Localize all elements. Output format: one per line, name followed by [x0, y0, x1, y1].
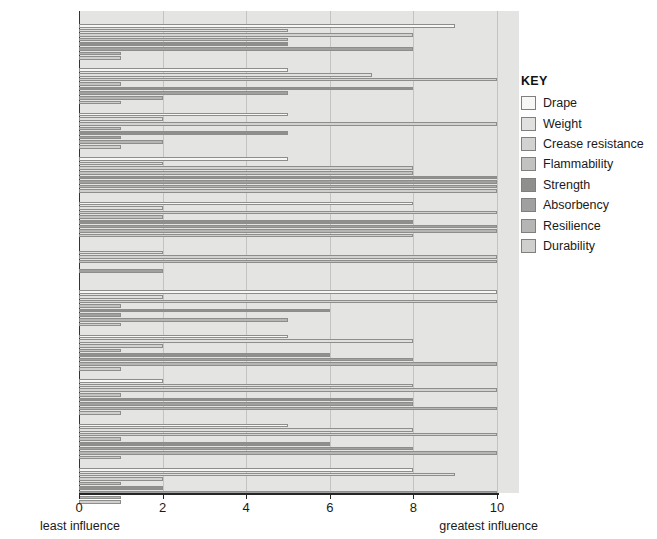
bar-linen-crease-resistance: [79, 388, 497, 392]
bar-elastane-strength: [79, 131, 288, 135]
bar-linen-resilience: [79, 407, 497, 411]
bar-silk-weight: [79, 428, 413, 432]
bar-nylon-resilience: [79, 185, 497, 189]
bar-nylon-weight: [79, 162, 163, 166]
bar-elastane-absorbency: [79, 136, 121, 140]
legend-label-crease-resistance: Crease resistance: [543, 137, 644, 151]
bar-tencel-crease-resistance: [79, 255, 497, 259]
x-tick-label-8: 8: [410, 500, 417, 515]
bar-silk-absorbency: [79, 447, 413, 451]
legend-label-drape: Drape: [543, 96, 577, 110]
bar-cotton-resilience: [79, 362, 497, 366]
bar-tencel-flammability: [79, 260, 497, 264]
bar-cotton-durability: [79, 367, 121, 371]
bar-cotton-weight: [79, 339, 413, 343]
bar-wool-durability: [79, 500, 121, 504]
legend-label-strength: Strength: [543, 178, 590, 192]
bar-cotton-flammability: [79, 349, 121, 353]
bar-tencel-weight: [79, 251, 163, 255]
category-group-acetate: Acetate: [79, 24, 519, 61]
legend-item-absorbency[interactable]: Absorbency: [521, 195, 653, 215]
bar-elastane-weight: [79, 117, 163, 121]
bar-polyester-weight: [79, 206, 163, 210]
bar-polyester-strength: [79, 220, 413, 224]
x-tick-8: [413, 493, 414, 499]
legend-swatch-flammability: [521, 157, 536, 171]
bar-acrylic-durability: [79, 101, 121, 105]
bar-polyester-crease-resistance: [79, 211, 497, 215]
legend-swatch-crease-resistance: [521, 137, 536, 151]
plot-area: AcetateAcrylicElastaneNylonPolyesterTenc…: [79, 11, 497, 493]
legend-item-durability[interactable]: Durability: [521, 236, 653, 256]
category-group-tencel: Tencel: [79, 246, 519, 283]
x-axis-line: [79, 493, 499, 495]
legend-item-weight[interactable]: Weight: [521, 113, 653, 133]
bar-nylon-durability: [79, 189, 497, 193]
bar-viscose-weight: [79, 295, 163, 299]
category-group-wool: Wool: [79, 468, 519, 505]
legend-item-drape[interactable]: Drape: [521, 93, 653, 113]
bar-cotton-strength: [79, 353, 330, 357]
bar-cotton-drape: [79, 335, 288, 339]
category-group-silk: Silk: [79, 424, 519, 461]
legend-swatch-strength: [521, 178, 536, 192]
bar-elastane-crease-resistance: [79, 122, 497, 126]
category-group-nylon: Nylon: [79, 157, 519, 194]
category-group-linen: Linen: [79, 379, 519, 416]
axis-greatest-influence-label: greatest influence: [439, 519, 538, 533]
legend-item-strength[interactable]: Strength: [521, 175, 653, 195]
legend-label-resilience: Resilience: [543, 219, 601, 233]
bar-silk-durability: [79, 456, 121, 460]
bar-acrylic-resilience: [79, 96, 163, 100]
bar-elastane-durability: [79, 145, 121, 149]
bar-elastane-flammability: [79, 127, 121, 131]
legend-swatch-durability: [521, 239, 536, 253]
x-tick-4: [246, 493, 247, 499]
bar-nylon-strength: [79, 176, 497, 180]
bar-linen-durability: [79, 411, 121, 415]
bar-acetate-weight: [79, 29, 288, 33]
bar-silk-drape: [79, 424, 288, 428]
bar-silk-crease-resistance: [79, 433, 497, 437]
bar-acetate-durability: [79, 56, 121, 60]
bar-tencel-absorbency: [79, 269, 163, 273]
bar-nylon-flammability: [79, 171, 413, 175]
bar-acetate-drape: [79, 24, 455, 28]
x-tick-label-0: 0: [75, 500, 82, 515]
legend-label-absorbency: Absorbency: [543, 198, 609, 212]
bar-linen-weight: [79, 384, 413, 388]
bar-acetate-flammability: [79, 38, 288, 42]
bar-viscose-durability: [79, 323, 121, 327]
x-tick-0: [79, 493, 80, 499]
bar-silk-resilience: [79, 451, 497, 455]
bar-linen-strength: [79, 398, 413, 402]
legend-item-crease-resistance[interactable]: Crease resistance: [521, 134, 653, 154]
bar-cotton-absorbency: [79, 358, 413, 362]
x-tick-2: [163, 493, 164, 499]
bar-wool-resilience: [79, 496, 121, 500]
legend-item-flammability[interactable]: Flammability: [521, 154, 653, 174]
legend-label-flammability: Flammability: [543, 157, 613, 171]
category-group-polyester: Polyester: [79, 202, 519, 239]
category-group-acrylic: Acrylic: [79, 68, 519, 105]
bar-wool-strength: [79, 486, 163, 490]
category-group-cotton: Cotton: [79, 335, 519, 372]
fibre-properties-bar-chart: AcetateAcrylicElastaneNylonPolyesterTenc…: [0, 0, 657, 539]
bar-polyester-flammability: [79, 215, 163, 219]
x-tick-label-6: 6: [326, 500, 333, 515]
bar-polyester-resilience: [79, 229, 497, 233]
bar-acrylic-flammability: [79, 82, 121, 86]
legend-label-durability: Durability: [543, 239, 595, 253]
legend-title: KEY: [521, 74, 653, 88]
bar-cotton-crease-resistance: [79, 344, 163, 348]
bar-viscose-resilience: [79, 318, 288, 322]
bar-wool-drape: [79, 468, 413, 472]
legend-item-resilience[interactable]: Resilience: [521, 215, 653, 235]
bar-viscose-crease-resistance: [79, 300, 497, 304]
legend-swatch-absorbency: [521, 198, 536, 212]
bar-acrylic-crease-resistance: [79, 78, 497, 82]
bar-acrylic-drape: [79, 68, 288, 72]
bar-wool-weight: [79, 473, 455, 477]
bar-viscose-flammability: [79, 304, 121, 308]
bar-polyester-durability: [79, 234, 413, 238]
